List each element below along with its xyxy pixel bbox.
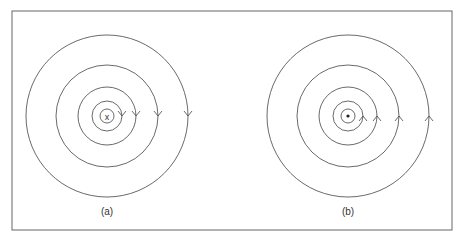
into-page-symbol-icon: x xyxy=(105,112,110,122)
field-lines-figure: x xyxy=(0,0,460,249)
panel-b-label: (b) xyxy=(342,206,354,217)
panel-b-up-arrows xyxy=(359,116,433,121)
panel-a-label: (a) xyxy=(101,206,113,217)
panel-a-down-arrows xyxy=(118,111,192,116)
out-of-page-dot-icon xyxy=(346,114,349,117)
